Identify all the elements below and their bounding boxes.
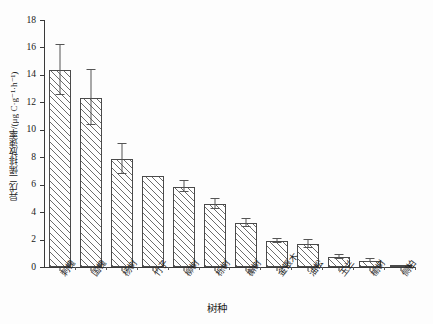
x-label-slot: 侧柏 — [384, 269, 415, 303]
bar-group — [45, 20, 76, 267]
bar — [111, 159, 133, 267]
error-bar-cap-lower — [272, 242, 281, 243]
y-tick-label: 6 — [31, 178, 36, 189]
error-bar-cap-upper — [365, 258, 374, 259]
plot-area: 024681012141618 — [44, 20, 416, 268]
y-tick-label: 16 — [26, 41, 36, 52]
y-tick-mark — [40, 47, 45, 48]
y-axis-title: 异戊二烯排放速率/(μg C·g⁻¹·h⁻¹) — [4, 0, 24, 272]
error-bar-cap-lower — [118, 173, 127, 174]
y-tick-mark — [40, 212, 45, 213]
y-tick-mark — [40, 75, 45, 76]
bar-group — [292, 20, 323, 267]
x-label-slot: 柳树 — [168, 269, 199, 303]
error-bar-cap-lower — [87, 124, 96, 125]
error-bar-cap-upper — [241, 218, 250, 219]
error-bar-cap-lower — [56, 94, 65, 95]
y-tick-label: 8 — [31, 151, 36, 162]
x-label-slot: 玉兰 — [322, 269, 353, 303]
bar-group — [200, 20, 231, 267]
y-tick-label: 10 — [26, 123, 36, 134]
x-label-slot: 油松 — [291, 269, 322, 303]
x-axis-title: 树种 — [0, 300, 433, 315]
bar-series — [45, 20, 416, 267]
y-tick-mark — [40, 267, 45, 268]
y-tick-label: 18 — [26, 14, 36, 25]
error-bar-cap-upper — [87, 69, 96, 70]
x-label-slot: 竹子 — [137, 269, 168, 303]
bar-group — [261, 20, 292, 267]
error-bar-cap-upper — [56, 44, 65, 45]
bar — [142, 176, 164, 267]
x-axis-category-labels: 刺槐国槐杨树竹子柳树栎树槲树金银木油松玉兰榆树侧柏 — [44, 269, 416, 303]
y-tick-label: 2 — [31, 233, 36, 244]
error-bar-cap-upper — [118, 143, 127, 144]
x-label-slot: 刺槐 — [44, 269, 75, 303]
bar — [173, 187, 195, 267]
bar-group — [385, 20, 416, 267]
error-bar — [91, 70, 92, 125]
bar-group — [354, 20, 385, 267]
error-bar-cap-upper — [303, 239, 312, 240]
bar-group — [76, 20, 107, 267]
x-label-slot: 国槐 — [75, 269, 106, 303]
bar-group — [169, 20, 200, 267]
bar — [49, 70, 71, 267]
bar-group — [107, 20, 138, 267]
x-label-slot: 榆树 — [353, 269, 384, 303]
error-bar-cap-lower — [241, 226, 250, 227]
error-bar — [122, 144, 123, 174]
bar-group — [323, 20, 354, 267]
y-tick-label: 12 — [26, 96, 36, 107]
error-bar-cap-lower — [334, 258, 343, 259]
x-label-slot: 槲树 — [230, 269, 261, 303]
error-bar — [60, 45, 61, 94]
x-label-slot: 金银木 — [260, 269, 291, 303]
x-label-slot: 栎树 — [199, 269, 230, 303]
y-tick-label: 14 — [26, 68, 36, 79]
x-label-slot: 杨树 — [106, 269, 137, 303]
error-bar-cap-lower — [303, 247, 312, 248]
error-bar-cap-upper — [180, 180, 189, 181]
y-tick-mark — [40, 157, 45, 158]
bar-group — [231, 20, 262, 267]
error-bar-cap-lower — [180, 191, 189, 192]
y-tick-mark — [40, 20, 45, 21]
bar-group — [138, 20, 169, 267]
error-bar-cap-upper — [211, 198, 220, 199]
y-tick-mark — [40, 185, 45, 186]
y-tick-label: 4 — [31, 206, 36, 217]
error-bar-cap-lower — [211, 208, 220, 209]
y-tick-label: 0 — [31, 261, 36, 272]
y-tick-mark — [40, 102, 45, 103]
error-bar-cap-upper — [272, 238, 281, 239]
error-bar-cap-upper — [334, 254, 343, 255]
y-tick-mark — [40, 130, 45, 131]
figure-container: 异戊二烯排放速率/(μg C·g⁻¹·h⁻¹) 024681012141618 … — [0, 0, 433, 324]
y-tick-mark — [40, 240, 45, 241]
